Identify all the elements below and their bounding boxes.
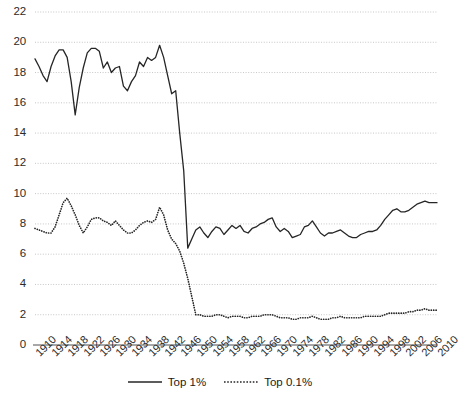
y-tick-label: 8 bbox=[0, 217, 26, 229]
series-lines-group bbox=[35, 45, 437, 319]
legend-item-top-1[interactable]: Top 1% bbox=[128, 376, 206, 388]
y-tick-label: 20 bbox=[0, 35, 26, 47]
y-tick-label: 12 bbox=[0, 156, 26, 168]
legend-dotted-line-icon bbox=[224, 377, 258, 387]
legend-label-top-0-1: Top 0.1% bbox=[264, 376, 312, 388]
series-line-1 bbox=[35, 198, 437, 319]
gridlines-group bbox=[35, 12, 437, 315]
y-tick-label: 2 bbox=[0, 308, 26, 320]
y-tick-label: 6 bbox=[0, 247, 26, 259]
y-tick-label: 18 bbox=[0, 66, 26, 78]
legend-solid-line-icon bbox=[128, 377, 162, 387]
y-tick-label: 4 bbox=[0, 277, 26, 289]
chart-legend: Top 1% Top 0.1% bbox=[0, 376, 440, 388]
legend-item-top-0-1[interactable]: Top 0.1% bbox=[224, 376, 312, 388]
series-line-0 bbox=[35, 45, 437, 248]
y-tick-label: 0 bbox=[0, 338, 26, 350]
y-tick-label: 14 bbox=[0, 126, 26, 138]
legend-label-top-1: Top 1% bbox=[168, 376, 206, 388]
y-tick-label: 16 bbox=[0, 96, 26, 108]
y-tick-label: 22 bbox=[0, 5, 26, 17]
y-tick-label: 10 bbox=[0, 187, 26, 199]
